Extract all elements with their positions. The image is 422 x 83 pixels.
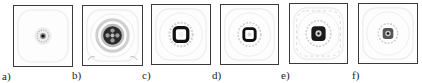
pattern-c	[152, 5, 210, 64]
panel-e	[289, 3, 348, 64]
panel-label-d: d)	[212, 70, 221, 81]
pattern-b	[83, 6, 142, 65]
panel-a	[13, 5, 73, 67]
panel-f	[358, 3, 418, 64]
panel-label-a: a)	[2, 71, 11, 82]
pattern-e	[290, 4, 347, 63]
pattern-f	[359, 4, 417, 63]
panel-label-c: c)	[142, 70, 151, 81]
panel-c	[151, 4, 211, 65]
panel-d	[220, 4, 279, 65]
pattern-a	[14, 6, 72, 66]
panel-label-b: b)	[72, 70, 81, 81]
panel-label-f: f)	[352, 70, 359, 81]
panel-label-e: e)	[281, 70, 290, 81]
pattern-d	[221, 5, 278, 64]
panel-b	[82, 5, 143, 66]
